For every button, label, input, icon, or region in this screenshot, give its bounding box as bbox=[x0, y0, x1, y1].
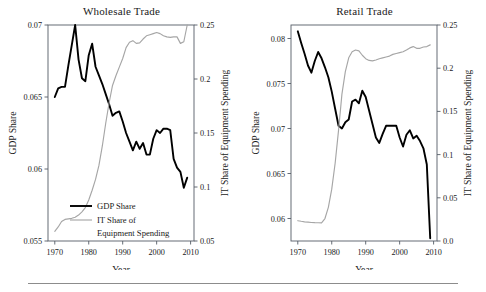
x-ticklabel: 1990 bbox=[358, 248, 374, 257]
y-ticklabel-left: 0.06 bbox=[28, 165, 42, 174]
figure-container: Wholesale Trade 0.0550.060.0650.070.050.… bbox=[0, 0, 486, 292]
axis-ticks-left bbox=[45, 25, 198, 245]
series-line-gdp-share bbox=[298, 31, 430, 238]
y-ticklabel-right: 0.25 bbox=[200, 21, 214, 30]
x-ticklabel: 2000 bbox=[391, 248, 407, 257]
y-ticklabel-left: 0.065 bbox=[267, 170, 285, 179]
x-ticklabel: 1980 bbox=[81, 248, 97, 257]
y-axis-title-right: IT Share of Equipment Spending bbox=[219, 69, 230, 196]
x-ticklabel: 1970 bbox=[290, 248, 306, 257]
plot-svg-left: 0.0550.060.0650.070.050.10.150.20.251970… bbox=[0, 0, 243, 270]
y-axis-title-left: GDP Share bbox=[250, 111, 261, 154]
y-ticklabel-right: 0.25 bbox=[443, 21, 457, 30]
y-axis-title-left: GDP Share bbox=[7, 111, 18, 154]
y-ticklabel-left: 0.06 bbox=[271, 215, 285, 224]
x-ticklabel: 1970 bbox=[47, 248, 63, 257]
y-ticklabel-right: 0.1 bbox=[200, 183, 210, 192]
x-ticklabel: 1990 bbox=[115, 248, 131, 257]
y-ticklabel-left: 0.065 bbox=[24, 93, 42, 102]
y-ticklabel-right: 0.15 bbox=[200, 129, 214, 138]
x-ticklabel: 2000 bbox=[148, 248, 164, 257]
x-ticklabel: 2010 bbox=[425, 248, 441, 257]
y-ticklabel-right: 0.05 bbox=[443, 194, 457, 203]
x-ticklabel: 2010 bbox=[182, 248, 198, 257]
y-ticklabel-right: 0.15 bbox=[443, 107, 457, 116]
axis-ticks-right bbox=[288, 25, 441, 245]
y-ticklabel-left: 0.07 bbox=[271, 125, 285, 134]
y-ticklabel-right: 0.05 bbox=[200, 237, 214, 246]
y-ticklabel-right: 0.1 bbox=[443, 151, 453, 160]
x-ticklabel: 1980 bbox=[324, 248, 340, 257]
y-ticklabel-right: 0.2 bbox=[200, 75, 210, 84]
x-axis-title: Year bbox=[112, 264, 130, 270]
footer-divider-rule bbox=[28, 283, 458, 284]
plot-right: 0.060.0650.070.0750.080.00.050.10.150.20… bbox=[243, 0, 486, 270]
y-ticklabel-right: 0.2 bbox=[443, 64, 453, 73]
y-ticklabel-left: 0.075 bbox=[267, 80, 285, 89]
legend-label-gdp-share: GDP Share bbox=[97, 201, 136, 211]
series-line-gdp-share bbox=[55, 25, 187, 188]
panel-retail-trade: Retail Trade 0.060.0650.070.0750.080.00.… bbox=[243, 0, 486, 270]
plot-svg-right: 0.060.0650.070.0750.080.00.050.10.150.20… bbox=[243, 0, 486, 270]
legend-label-it-share: IT Share of bbox=[97, 215, 136, 225]
y-axis-title-right: IT Share of Equipment Spending bbox=[462, 69, 473, 196]
y-ticklabel-right: 0.0 bbox=[443, 237, 453, 246]
legend-left: GDP ShareIT Share ofEquipment Spending bbox=[70, 201, 170, 238]
data-series-right bbox=[298, 31, 430, 238]
x-axis-title: Year bbox=[355, 264, 373, 270]
legend-label-it-share-line2: Equipment Spending bbox=[97, 228, 170, 238]
plot-left: 0.0550.060.0650.070.050.10.150.20.251970… bbox=[0, 0, 243, 270]
y-ticklabel-left: 0.055 bbox=[24, 237, 42, 246]
panel-wholesale-trade: Wholesale Trade 0.0550.060.0650.070.050.… bbox=[0, 0, 243, 270]
y-ticklabel-left: 0.08 bbox=[271, 35, 285, 44]
y-ticklabel-left: 0.07 bbox=[28, 21, 42, 30]
